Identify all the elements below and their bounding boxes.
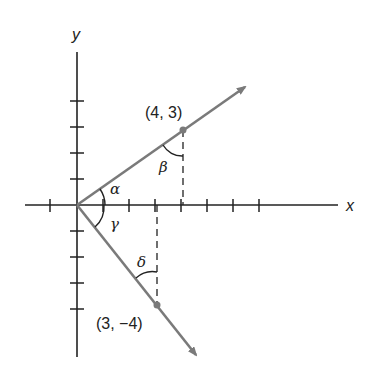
angle-gamma-label: γ — [110, 215, 119, 233]
vector-3-neg4 — [77, 205, 196, 355]
angle-beta-label: β — [158, 158, 168, 176]
point-4-3-marker — [180, 127, 187, 134]
point-label-3-neg4: (3, −4) — [96, 315, 143, 332]
angle-alpha-label: α — [110, 180, 120, 198]
x-axis-label: x — [345, 197, 355, 214]
angle-delta-arc — [136, 272, 157, 278]
point-3-neg4-marker — [154, 302, 161, 309]
point-label-4-3: (4, 3) — [145, 104, 182, 121]
diagram-canvas: y x (4, 3) (3, −4) α β γ δ — [0, 0, 377, 376]
y-axis-label: y — [71, 26, 81, 43]
angle-delta-label: δ — [137, 253, 146, 271]
angle-beta-arc — [163, 145, 183, 156]
vector-angle-diagram: y x (4, 3) (3, −4) α β γ δ — [0, 0, 377, 376]
